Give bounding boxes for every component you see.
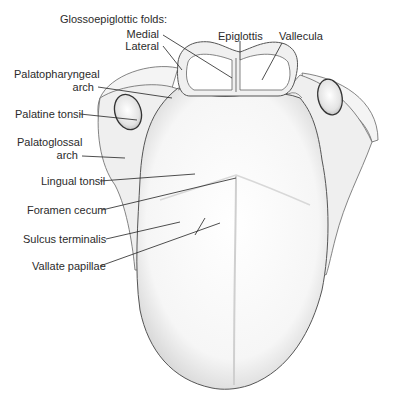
label-lingual-tonsil: Lingual tonsil [41, 175, 105, 188]
label-palatopharyngeal-arch: Palatopharyngeal [14, 68, 100, 81]
vallecula-left [186, 54, 232, 90]
label-palatoglossal-arch: Palatoglossal [17, 136, 82, 149]
label-lateral: Lateral [100, 40, 159, 53]
label-palatine-tonsil: Palatine tonsil [15, 108, 84, 121]
label-vallecula: Vallecula [279, 30, 323, 43]
vallecula-right [240, 54, 290, 90]
label-glossoepiglottic-folds: Glossoepiglottic folds: [60, 13, 159, 26]
tongue-diagram [0, 0, 395, 402]
label-foramen-cecum: Foramen cecum [27, 204, 106, 217]
label-palatopharyngeal-arch-2: arch [40, 81, 94, 94]
label-palatoglossal-arch-2: arch [40, 149, 78, 162]
tongue-body [137, 88, 328, 389]
label-sulcus-terminalis: Sulcus terminalis [23, 233, 106, 246]
label-vallate-papillae: Vallate papillae [32, 260, 106, 273]
label-epiglottis: Epiglottis [218, 30, 263, 43]
